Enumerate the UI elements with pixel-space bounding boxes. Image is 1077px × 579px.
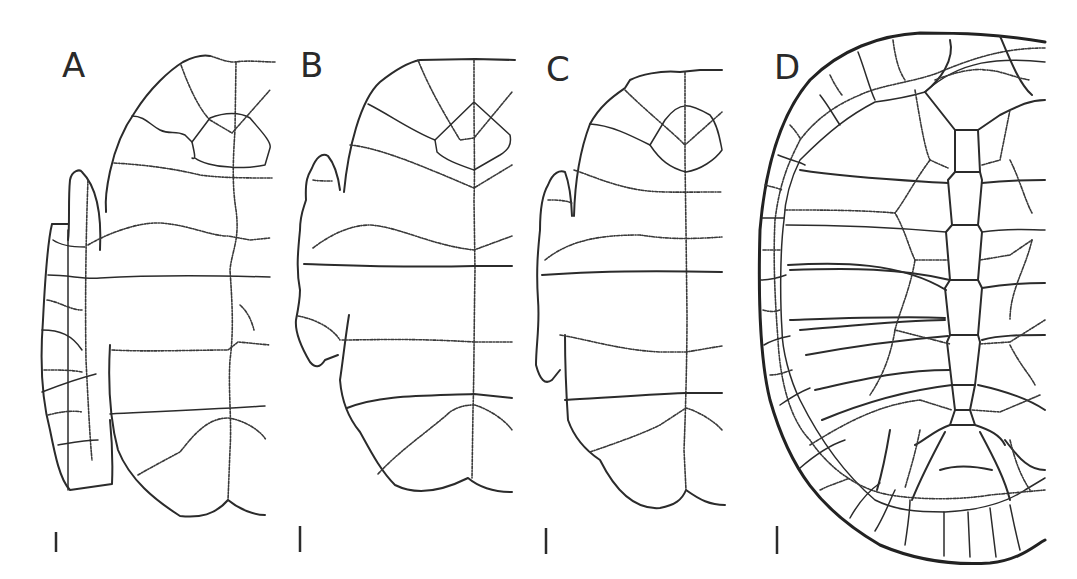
panel-a-drawing <box>42 56 275 552</box>
panel-c-drawing <box>536 70 725 554</box>
panel-b-drawing <box>296 59 515 552</box>
shell-drawings <box>0 0 1077 579</box>
panel-d-drawing <box>759 33 1045 564</box>
figure: A B C D <box>0 0 1077 579</box>
